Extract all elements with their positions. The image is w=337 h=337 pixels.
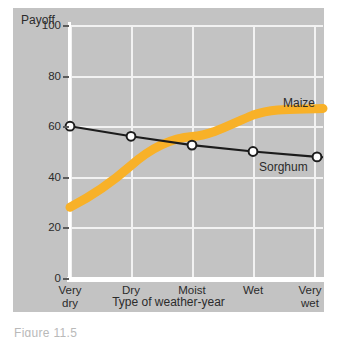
data-point-sorghum-moist <box>188 141 197 150</box>
y-tick-label-40: 40 <box>21 172 61 182</box>
chart-panel: Payoff <box>13 8 324 312</box>
y-tick-label-0: 0 <box>21 273 61 283</box>
chart-svg <box>70 25 323 278</box>
y-tick-mark-100 <box>63 25 69 27</box>
y-tick-mark-0 <box>63 278 69 280</box>
y-tick-mark-40 <box>63 177 69 179</box>
series-sorghum-line <box>70 126 323 157</box>
y-tick-mark-80 <box>63 76 69 78</box>
y-tick-label-80: 80 <box>21 71 61 81</box>
data-point-sorghum-very-wet <box>313 153 322 162</box>
y-tick-label-20: 20 <box>21 222 61 232</box>
data-point-sorghum-dry <box>127 132 136 141</box>
series-label-maize: Maize <box>283 96 315 110</box>
series-label-sorghum: Sorghum <box>259 160 308 174</box>
y-tick-label-60: 60 <box>21 121 61 131</box>
figure-caption-partial: Figure 11.5 <box>14 326 324 337</box>
figure-container: Payoff <box>0 0 337 337</box>
data-point-sorghum-wet <box>249 147 258 156</box>
y-tick-mark-20 <box>63 227 69 229</box>
series-maize-line <box>70 109 323 208</box>
y-tick-label-100: 100 <box>21 20 61 30</box>
plot-area <box>70 25 323 278</box>
x-axis-title: Type of weather-year <box>13 295 324 309</box>
y-tick-mark-60 <box>63 126 69 128</box>
